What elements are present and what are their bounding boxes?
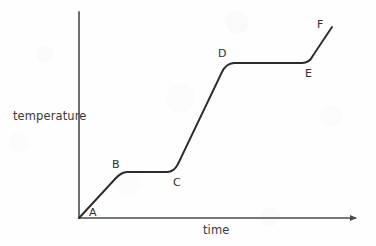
point-label-f: F xyxy=(317,18,323,31)
heating-curve-line xyxy=(79,27,332,218)
heating-curve-plot xyxy=(0,0,376,246)
point-label-b: B xyxy=(112,158,120,171)
point-label-d: D xyxy=(218,47,227,60)
heating-curve-figure: temperature time A B C D E F xyxy=(0,0,376,246)
x-axis-title: time xyxy=(203,223,229,237)
point-label-c: C xyxy=(173,176,181,189)
y-axis-title: temperature xyxy=(13,109,86,123)
point-label-e: E xyxy=(305,67,312,80)
point-label-a: A xyxy=(89,206,97,219)
